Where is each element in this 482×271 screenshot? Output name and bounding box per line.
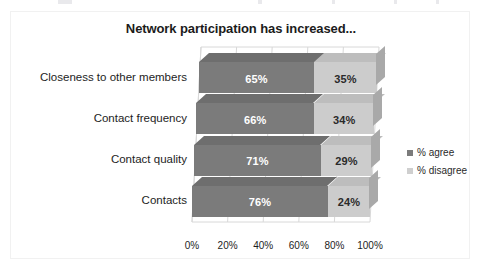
category-label: Contact quality: [111, 153, 187, 166]
bar-value-label: 66%: [244, 114, 266, 126]
bar-segment-disagree[interactable]: 29%: [321, 145, 373, 176]
category-axis: Closeness to other membersContact freque…: [19, 45, 187, 240]
bar-segment-disagree[interactable]: 34%: [314, 103, 375, 134]
chart-legend: % agree% disagree: [407, 145, 482, 181]
bar-value-label: 35%: [334, 73, 356, 85]
bar-value-label: 65%: [245, 73, 267, 85]
bar-top-face: [199, 53, 325, 62]
axis-tick-label: 60%: [282, 240, 316, 251]
chart-title: Network participation has increased...: [11, 21, 471, 36]
bar-group: 65%35%: [199, 62, 377, 93]
bar-value-label: 34%: [333, 114, 355, 126]
bar-value-label: 29%: [335, 155, 357, 167]
axis-tick-label: 100%: [353, 240, 387, 251]
bar-top-face: [192, 177, 337, 186]
bar-front-face: 29%: [321, 145, 373, 176]
bar-segment-agree[interactable]: 66%: [196, 103, 313, 134]
category-label: Contacts: [142, 194, 187, 207]
scan-artifact-strip: [0, 0, 482, 10]
chart-container: Network participation has increased... C…: [10, 11, 470, 259]
bar-value-label: 71%: [246, 155, 268, 167]
bar-group: 66%34%: [196, 103, 374, 134]
bar-group: 76%24%: [192, 186, 370, 217]
bar-front-face: 34%: [314, 103, 375, 134]
bar-front-face: 35%: [314, 62, 376, 93]
legend-label: % agree: [417, 147, 454, 158]
axis-tick-label: 20%: [211, 240, 245, 251]
bar-segment-disagree[interactable]: 35%: [314, 62, 376, 93]
bar-segment-agree[interactable]: 76%: [192, 186, 327, 217]
bar-front-face: 76%: [192, 186, 327, 217]
axis-tick-label: 0%: [175, 240, 209, 251]
bar-segment-disagree[interactable]: 24%: [328, 186, 371, 217]
bar-front-face: 66%: [196, 103, 313, 134]
legend-swatch-icon: [407, 150, 413, 156]
bar-value-label: 24%: [338, 196, 360, 208]
legend-label: % disagree: [417, 165, 467, 176]
bar-segment-agree[interactable]: 65%: [199, 62, 315, 93]
bar-front-face: 71%: [194, 145, 320, 176]
plot-area: 65%35%66%34%71%29%76%24%: [186, 45, 401, 240]
value-axis: 0%20%40%60%80%100%: [186, 240, 416, 256]
bar-value-label: 76%: [249, 196, 271, 208]
bar-segment-agree[interactable]: 71%: [194, 145, 320, 176]
category-label: Contact frequency: [94, 112, 187, 125]
axis-tick-label: 40%: [246, 240, 280, 251]
bar-top-face: [194, 136, 330, 145]
bar-front-face: 65%: [199, 62, 315, 93]
legend-item[interactable]: % disagree: [407, 163, 482, 178]
bar-front-face: 24%: [328, 186, 371, 217]
bar-group: 71%29%: [194, 145, 372, 176]
category-label: Closeness to other members: [40, 71, 187, 84]
axis-tick-label: 80%: [317, 240, 351, 251]
legend-swatch-icon: [407, 168, 413, 174]
legend-item[interactable]: % agree: [407, 145, 482, 160]
bar-top-face: [196, 94, 323, 103]
